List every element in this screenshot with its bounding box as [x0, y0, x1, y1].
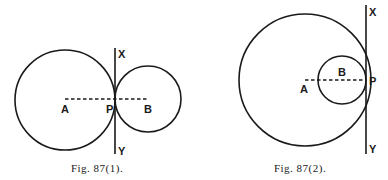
- label-a: A: [61, 103, 69, 115]
- diagram-canvas: A P B X Y Fig. 87(1). A B P X Y Fig. 87(…: [0, 0, 388, 180]
- label-b: B: [338, 66, 346, 78]
- circle-b: [115, 66, 181, 132]
- label-x: X: [369, 6, 377, 18]
- label-a: A: [300, 83, 308, 95]
- label-b: B: [144, 103, 152, 115]
- circle-a: [15, 50, 115, 150]
- label-p: P: [369, 75, 376, 87]
- label-y: Y: [118, 145, 126, 157]
- figure-caption: Fig. 87(2).: [274, 162, 326, 175]
- figure-87-2: A B P X Y Fig. 87(2).: [239, 5, 377, 175]
- label-y: Y: [369, 143, 377, 155]
- figure-caption: Fig. 87(1).: [71, 162, 123, 175]
- figure-87-1: A P B X Y Fig. 87(1).: [15, 48, 181, 175]
- label-x: X: [118, 48, 126, 60]
- label-p: P: [106, 103, 113, 115]
